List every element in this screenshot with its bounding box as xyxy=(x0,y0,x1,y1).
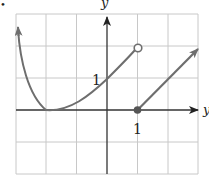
closed-endpoint xyxy=(134,106,142,114)
open-endpoint xyxy=(134,44,142,52)
function-graph: • y y 1 1 xyxy=(0,0,209,181)
x-axis-label: y xyxy=(202,102,209,117)
x-tick-label: 1 xyxy=(133,121,142,137)
left-curve-arrow xyxy=(18,27,19,36)
bullet-marker: • xyxy=(0,0,6,10)
y-axis-label: y xyxy=(100,0,109,10)
